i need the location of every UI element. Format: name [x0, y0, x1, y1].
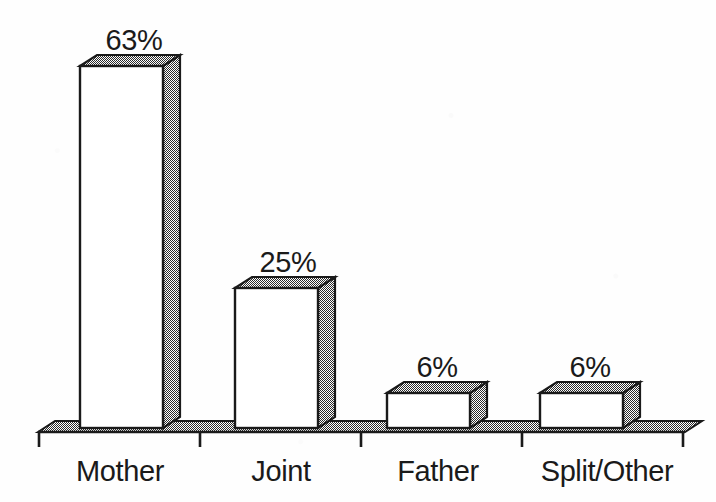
bar-mother: [80, 55, 180, 428]
x-axis-ticks: [39, 432, 683, 447]
value-label-split-other: 6%: [569, 353, 610, 382]
value-label-father: 6%: [416, 353, 457, 382]
category-label-mother: Mother: [76, 457, 164, 486]
bar-joint: [235, 277, 335, 428]
category-label-split-other: Split/Other: [541, 457, 674, 486]
bar-split-other: [540, 382, 640, 428]
value-label-mother: 63%: [106, 26, 163, 55]
bar-father: [387, 382, 487, 428]
x-axis: [38, 432, 685, 447]
category-label-joint: Joint: [251, 457, 310, 486]
chart-plot-area: [0, 0, 716, 502]
bar-chart: 63% 25% 6% 6% Mother Joint Father Split/…: [0, 0, 716, 502]
value-label-joint: 25%: [260, 248, 317, 277]
category-label-father: Father: [397, 457, 478, 486]
